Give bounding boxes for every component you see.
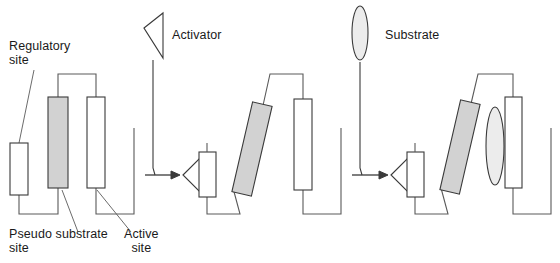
arrow-panel2-to-panel3 [352, 62, 388, 179]
panel-1 [10, 70, 134, 232]
leader-regulatory-site [19, 70, 34, 143]
substrate-ellipse-panel3 [486, 107, 504, 185]
active-site-bar-panel3 [505, 97, 522, 188]
pseudo-substrate-bar-panel2 [232, 102, 272, 196]
legend-substrate-ellipse [352, 6, 368, 60]
label-active-site: Active site [124, 228, 159, 255]
label-substrate: Substrate [385, 29, 439, 43]
leader-active-site [97, 190, 131, 232]
arrow-head-1 [171, 171, 180, 179]
leader-pseudo-substrate-site [62, 190, 78, 232]
diagram-svg [0, 0, 560, 263]
connector-top-panel1 [58, 74, 96, 97]
label-pseudo-substrate-site: Pseudo substrate site [9, 228, 108, 255]
regulatory-site-box-panel2 [199, 152, 216, 197]
active-site-bar-panel2 [294, 99, 312, 190]
diagram-canvas: Regulatory site Pseudo substrate site Ac… [0, 0, 560, 263]
activator-feed-line [153, 60, 155, 175]
arrow-head-2 [379, 171, 388, 179]
panel-3 [391, 74, 551, 214]
regulatory-site-box-panel3 [407, 152, 424, 197]
label-regulatory-site: Regulatory site [9, 40, 70, 67]
arrow-panel1-to-panel2 [145, 60, 180, 179]
pseudo-substrate-bar-panel3 [440, 100, 480, 194]
activator-triangle-panel3 [391, 158, 408, 192]
regulatory-site-box-panel1 [10, 143, 28, 195]
activator-triangle-panel2 [183, 158, 200, 192]
label-activator: Activator [172, 29, 222, 43]
active-site-bar-panel1 [87, 97, 105, 188]
panel-2 [183, 74, 341, 214]
substrate-feed-line [360, 62, 362, 175]
legend-activator-triangle [144, 13, 163, 58]
pseudo-substrate-bar-panel1 [48, 97, 68, 188]
